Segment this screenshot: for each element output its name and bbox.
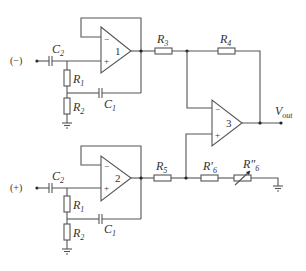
resistor-r1-top <box>64 70 70 86</box>
svg-text:R2: R2 <box>72 100 84 116</box>
variable-resistor-r6-double-prime <box>234 171 251 185</box>
ground-icon <box>273 186 283 191</box>
svg-text:C1: C1 <box>104 97 116 113</box>
svg-text:C2: C2 <box>52 169 64 185</box>
capacitor-c2-bottom <box>49 183 52 193</box>
resistor-r1-bottom <box>64 196 70 212</box>
svg-text:R2: R2 <box>72 226 84 242</box>
opamp-1: − + 1 <box>101 27 131 73</box>
svg-text:+: + <box>104 56 109 66</box>
circuit-diagram: (−) C2 R1 R2 C1 <box>0 0 306 271</box>
ground-icon <box>62 123 72 128</box>
capacitor-c1-bottom <box>99 214 102 224</box>
resistor-r2-top <box>64 98 70 114</box>
resistor-r3 <box>155 48 172 54</box>
svg-text:R1: R1 <box>72 198 84 214</box>
svg-text:R3: R3 <box>156 32 168 48</box>
opamp-2: − + 2 <box>101 156 131 201</box>
resistor-r6-prime <box>201 175 218 181</box>
ground-icon <box>62 249 72 254</box>
negative-input-label: (−) <box>10 55 22 67</box>
capacitor-c1-top <box>99 88 102 98</box>
svg-text:+: + <box>215 130 220 140</box>
resistor-r4 <box>218 48 235 54</box>
svg-text:−: − <box>215 104 220 114</box>
output-label: Vout <box>275 104 293 120</box>
svg-text:−: − <box>104 34 109 44</box>
svg-text:2: 2 <box>115 172 121 184</box>
top-input-stage: (−) C2 R1 R2 C1 <box>10 18 155 128</box>
positive-input-label: (+) <box>10 182 22 194</box>
bottom-input-stage: (+) C2 R1 R2 C1 − + 2 <box>10 146 154 254</box>
svg-text:R″6: R″6 <box>242 157 259 173</box>
svg-text:R1: R1 <box>72 72 84 88</box>
svg-text:R4: R4 <box>219 32 231 48</box>
difference-stage: R3 R4 − + 3 Vout R5 R′6 <box>154 32 293 191</box>
svg-text:+: + <box>104 183 109 193</box>
svg-text:C2: C2 <box>52 42 64 58</box>
output-terminal <box>279 121 282 124</box>
resistor-r5 <box>154 175 171 181</box>
capacitor-c2-top <box>49 56 52 66</box>
svg-text:R′6: R′6 <box>202 159 217 175</box>
svg-text:C1: C1 <box>104 222 116 238</box>
svg-text:1: 1 <box>115 45 121 57</box>
resistor-r2-bottom <box>64 224 70 240</box>
svg-text:−: − <box>104 161 109 171</box>
svg-text:3: 3 <box>226 117 232 129</box>
opamp-3: − + 3 <box>212 100 242 146</box>
svg-text:R5: R5 <box>155 159 167 175</box>
